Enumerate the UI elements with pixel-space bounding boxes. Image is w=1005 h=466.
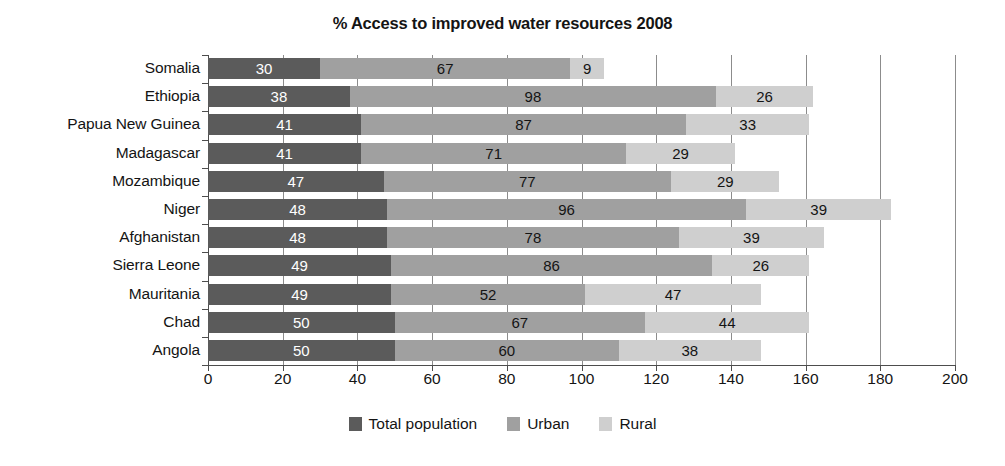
legend-swatch-icon bbox=[599, 417, 612, 431]
y-tick-mark bbox=[202, 111, 208, 112]
bar-segment-rural[interactable] bbox=[746, 199, 892, 220]
x-tick-mark-180 bbox=[880, 365, 881, 371]
chart-container: % Access to improved water resources 200… bbox=[0, 0, 1005, 466]
y-tick-mark bbox=[202, 281, 208, 282]
y-axis-label-ethiopia: Ethiopia bbox=[0, 87, 200, 105]
x-tick-label-20: 20 bbox=[253, 370, 313, 388]
x-tick-mark-20 bbox=[283, 365, 284, 371]
bar-segment-rural[interactable] bbox=[645, 312, 809, 333]
bar-segment-total-population[interactable] bbox=[208, 114, 361, 135]
bar-segment-total-population[interactable] bbox=[208, 284, 391, 305]
bar-segment-urban[interactable] bbox=[384, 171, 672, 192]
bar-segment-rural[interactable] bbox=[626, 143, 734, 164]
bar-segment-total-population[interactable] bbox=[208, 143, 361, 164]
chart-legend: Total populationUrbanRural bbox=[0, 415, 1005, 433]
bar-segment-rural[interactable] bbox=[671, 171, 779, 192]
bar-segment-total-population[interactable] bbox=[208, 340, 395, 361]
x-tick-mark-80 bbox=[507, 365, 508, 371]
bar-row[interactable]: 495247 bbox=[208, 284, 955, 305]
bar-segment-urban[interactable] bbox=[361, 114, 686, 135]
bar-segment-urban[interactable] bbox=[391, 255, 712, 276]
x-tick-mark-200 bbox=[955, 365, 956, 371]
x-tick-mark-100 bbox=[582, 365, 583, 371]
bar-segment-urban[interactable] bbox=[395, 340, 619, 361]
bar-segment-urban[interactable] bbox=[387, 199, 746, 220]
x-tick-label-80: 80 bbox=[477, 370, 537, 388]
x-tick-label-120: 120 bbox=[626, 370, 686, 388]
y-tick-mark bbox=[202, 83, 208, 84]
x-tick-mark-40 bbox=[357, 365, 358, 371]
chart-title: % Access to improved water resources 200… bbox=[0, 14, 1005, 33]
y-axis-label-niger: Niger bbox=[0, 200, 200, 218]
bar-segment-total-population[interactable] bbox=[208, 255, 391, 276]
x-tick-mark-60 bbox=[432, 365, 433, 371]
y-tick-mark bbox=[202, 309, 208, 310]
bar-segment-total-population[interactable] bbox=[208, 86, 350, 107]
y-axis-label-mauritania: Mauritania bbox=[0, 285, 200, 303]
bar-segment-urban[interactable] bbox=[350, 86, 716, 107]
y-axis-label-papua-new-guinea: Papua New Guinea bbox=[0, 115, 200, 133]
bar-segment-total-population[interactable] bbox=[208, 227, 387, 248]
x-tick-mark-160 bbox=[806, 365, 807, 371]
x-tick-label-0: 0 bbox=[178, 370, 238, 388]
y-tick-mark bbox=[202, 224, 208, 225]
y-axis-label-sierra-leone: Sierra Leone bbox=[0, 256, 200, 274]
bar-row[interactable]: 418733 bbox=[208, 114, 955, 135]
y-axis-label-mozambique: Mozambique bbox=[0, 172, 200, 190]
bar-segment-total-population[interactable] bbox=[208, 58, 320, 79]
bar-segment-total-population[interactable] bbox=[208, 312, 395, 333]
legend-item-rural[interactable]: Rural bbox=[599, 415, 656, 433]
plot-area: 3067938982641873341712947772948963948783… bbox=[208, 55, 955, 365]
bar-row[interactable]: 506038 bbox=[208, 340, 955, 361]
bar-segment-total-population[interactable] bbox=[208, 171, 384, 192]
bar-segment-urban[interactable] bbox=[395, 312, 645, 333]
bar-row[interactable]: 417129 bbox=[208, 143, 955, 164]
bar-segment-total-population[interactable] bbox=[208, 199, 387, 220]
y-tick-mark bbox=[202, 140, 208, 141]
bar-row[interactable]: 389826 bbox=[208, 86, 955, 107]
x-tick-label-180: 180 bbox=[850, 370, 910, 388]
x-tick-label-160: 160 bbox=[776, 370, 836, 388]
x-tick-label-100: 100 bbox=[552, 370, 612, 388]
y-tick-mark bbox=[202, 337, 208, 338]
x-tick-mark-0 bbox=[208, 365, 209, 371]
bar-segment-rural[interactable] bbox=[716, 86, 813, 107]
y-tick-mark bbox=[202, 168, 208, 169]
bar-row[interactable]: 489639 bbox=[208, 199, 955, 220]
bar-segment-urban[interactable] bbox=[387, 227, 678, 248]
bar-row[interactable]: 477729 bbox=[208, 171, 955, 192]
bar-row[interactable]: 30679 bbox=[208, 58, 955, 79]
y-tick-mark bbox=[202, 252, 208, 253]
bar-row[interactable]: 498626 bbox=[208, 255, 955, 276]
legend-swatch-icon bbox=[507, 417, 520, 431]
y-axis-label-somalia: Somalia bbox=[0, 59, 200, 77]
legend-label: Rural bbox=[619, 415, 656, 433]
bar-segment-urban[interactable] bbox=[391, 284, 585, 305]
bar-segment-rural[interactable] bbox=[679, 227, 825, 248]
bar-segment-urban[interactable] bbox=[361, 143, 626, 164]
legend-item-urban[interactable]: Urban bbox=[507, 415, 569, 433]
legend-label: Urban bbox=[527, 415, 569, 433]
bar-segment-rural[interactable] bbox=[570, 58, 604, 79]
bar-segment-rural[interactable] bbox=[686, 114, 809, 135]
x-tick-label-40: 40 bbox=[327, 370, 387, 388]
bar-segment-urban[interactable] bbox=[320, 58, 570, 79]
x-tick-mark-140 bbox=[731, 365, 732, 371]
bar-segment-rural[interactable] bbox=[619, 340, 761, 361]
legend-label: Total population bbox=[369, 415, 478, 433]
bar-segment-rural[interactable] bbox=[712, 255, 809, 276]
legend-swatch-icon bbox=[349, 417, 362, 431]
y-axis-label-afghanistan: Afghanistan bbox=[0, 228, 200, 246]
y-tick-mark bbox=[202, 55, 208, 56]
bar-row[interactable]: 506744 bbox=[208, 312, 955, 333]
y-axis-label-angola: Angola bbox=[0, 341, 200, 359]
bar-segment-rural[interactable] bbox=[585, 284, 761, 305]
gridline-200 bbox=[955, 55, 956, 365]
x-tick-label-140: 140 bbox=[701, 370, 761, 388]
legend-item-total-population[interactable]: Total population bbox=[349, 415, 478, 433]
x-tick-label-200: 200 bbox=[925, 370, 985, 388]
y-axis-label-chad: Chad bbox=[0, 313, 200, 331]
x-tick-mark-120 bbox=[656, 365, 657, 371]
bar-row[interactable]: 487839 bbox=[208, 227, 955, 248]
x-tick-label-60: 60 bbox=[402, 370, 462, 388]
